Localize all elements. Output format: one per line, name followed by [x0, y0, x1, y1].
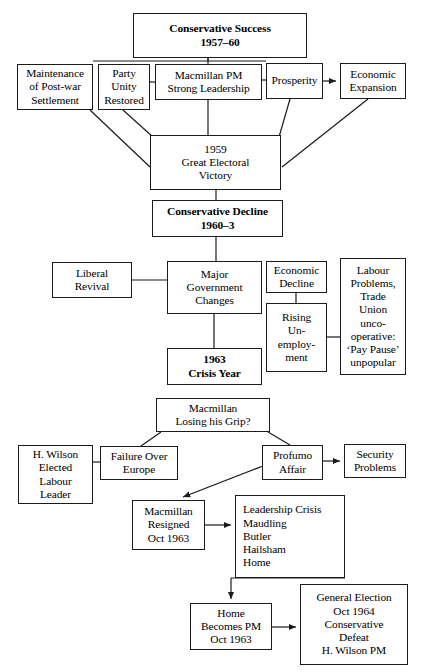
node-text-line: Conservative: [325, 618, 384, 631]
node-text-line: Profumo: [273, 449, 312, 462]
general-election-1964-box[interactable]: General ElectionOct 1964ConservativeDefe…: [300, 584, 408, 665]
node-text-line: Defeat: [339, 631, 369, 644]
node-text-line: Economic: [350, 68, 395, 81]
edge-profumo-to-resigned: [183, 466, 263, 497]
node-text-line: Expansion: [349, 81, 396, 94]
node-text-line: Trade: [360, 290, 386, 303]
node-text-line: Butler: [243, 530, 271, 543]
node-text-line: Un-: [288, 324, 305, 337]
node-text-line: Oct 1963: [210, 633, 251, 646]
node-text-line: Prosperity: [272, 74, 318, 87]
node-text-line: Victory: [199, 169, 232, 182]
conservative-success-box[interactable]: Conservative Success1957–60: [133, 13, 307, 58]
node-text-line: Security: [356, 448, 393, 461]
node-text-line: Changes: [195, 294, 234, 307]
node-text-line: Conservative Success: [169, 22, 270, 35]
node-text-line: Decline: [279, 277, 314, 290]
node-text-line: Government: [187, 281, 243, 294]
node-text-line: Settlement: [31, 94, 79, 107]
node-text-line: operative:: [351, 330, 396, 343]
node-text-line: Labour: [357, 264, 389, 277]
node-text-line: Conservative Decline: [167, 205, 268, 218]
node-text-line: 1957–60: [200, 36, 239, 49]
edge-maintenance-to-victory: [90, 110, 150, 167]
node-text-line: of Post-war: [29, 80, 81, 93]
home-becomes-pm-box[interactable]: HomeBecomes PMOct 1963: [190, 603, 272, 650]
maintenance-post-war-settlement-box[interactable]: Maintenanceof Post-warSettlement: [17, 64, 93, 110]
node-text-line: ment: [285, 351, 307, 364]
conservative-decline-box[interactable]: Conservative Decline1960–3: [152, 200, 283, 237]
node-text-line: Macmillan: [189, 402, 237, 415]
security-problems-box[interactable]: SecurityProblems: [344, 444, 406, 478]
macmillan-resigned-box[interactable]: MacmillanResignedOct 1963: [132, 500, 205, 550]
node-text-line: Labour: [39, 475, 71, 488]
edge-grip-to-profumo: [268, 432, 290, 445]
node-text-line: Maintenance: [26, 67, 84, 80]
node-text-line: Home: [243, 556, 270, 569]
node-text-line: Oct 1963: [148, 532, 189, 545]
edge-grip-to-failure: [141, 432, 161, 446]
profumo-affair-box[interactable]: ProfumoAffair: [262, 445, 323, 480]
h-wilson-elected-labour-leader-box[interactable]: H. WilsonElectedLabourLeader: [18, 445, 93, 504]
macmillan-pm-strong-leadership-box[interactable]: Macmillan PMStrong Leadership: [155, 64, 262, 100]
edge-prosperity-to-victory: [279, 99, 290, 137]
liberal-revival-box[interactable]: LiberalRevival: [52, 262, 132, 298]
node-text-line: employ-: [278, 338, 315, 351]
node-text-line: H. Wilson: [33, 448, 78, 461]
rising-unemployment-box[interactable]: RisingUn-employ-ment: [266, 303, 327, 372]
node-text-line: Economic: [274, 264, 319, 277]
node-text-line: Europe: [123, 463, 155, 476]
node-text-line: Home: [217, 607, 244, 620]
node-text-line: Elected: [39, 461, 72, 474]
node-text-line: 1963: [203, 353, 225, 366]
node-text-line: Oct 1964: [333, 605, 374, 618]
node-text-line: Failure Over: [111, 450, 168, 463]
node-text-line: Rising: [282, 311, 311, 324]
economic-decline-box[interactable]: EconomicDecline: [266, 261, 327, 293]
node-text-line: Party: [112, 67, 136, 80]
node-text-line: Leadership Crisis: [243, 503, 321, 516]
edge-expansion-to-victory: [282, 99, 368, 167]
node-text-line: Becomes PM: [201, 620, 261, 633]
node-text-line: Major: [201, 268, 228, 281]
node-text-line: Great Electoral: [182, 156, 250, 169]
node-text-line: 1959: [204, 143, 226, 156]
node-text-line: Macmillan: [144, 505, 192, 518]
node-text-line: Affair: [279, 463, 306, 476]
node-text-line: Liberal: [76, 267, 108, 280]
node-text-line: H. Wilson PM: [322, 644, 386, 657]
edge-success-hbar: [93, 58, 266, 61]
node-text-line: Hailsham: [243, 543, 286, 556]
node-text-line: Strong Leadership: [167, 82, 249, 95]
node-text-line: Restored: [104, 94, 144, 107]
failure-over-europe-box[interactable]: Failure OverEurope: [100, 446, 178, 480]
node-text-line: unco-: [360, 317, 385, 330]
node-text-line: Macmillan PM: [175, 69, 242, 82]
node-text-line: Crisis Year: [188, 367, 241, 380]
prosperity-box[interactable]: Prosperity: [266, 63, 323, 99]
node-text-line: Problems,: [351, 277, 396, 290]
macmillan-losing-his-grip-box[interactable]: MacmillanLosing his Grip?: [156, 398, 270, 432]
leadership-crisis-box[interactable]: Leadership CrisisMaudlingButlerHailshamH…: [235, 495, 345, 578]
node-text-line: Union: [359, 303, 387, 316]
node-text-line: Losing his Grip?: [176, 415, 251, 428]
edge-party-unity-to-victory: [123, 110, 153, 137]
node-text-line: Maudling: [243, 517, 287, 530]
node-text-line: Resigned: [148, 518, 190, 531]
crisis-year-1963-box[interactable]: 1963Crisis Year: [167, 348, 262, 385]
node-text-line: unpopular: [350, 356, 395, 369]
economic-expansion-box[interactable]: EconomicExpansion: [340, 63, 406, 99]
node-text-line: Problems: [354, 461, 396, 474]
node-text-line: Unity: [111, 80, 136, 93]
flowchart-canvas: Conservative Success1957–60Maintenanceof…: [0, 0, 423, 672]
node-text-line: ‘Pay Pause’: [347, 343, 400, 356]
great-electoral-victory-box[interactable]: 1959Great ElectoralVictory: [150, 135, 281, 190]
node-text-line: General Election: [316, 591, 391, 604]
major-government-changes-box[interactable]: MajorGovernmentChanges: [167, 261, 262, 314]
node-text-line: Leader: [40, 488, 71, 501]
node-text-line: Revival: [75, 280, 110, 293]
labour-problems-trade-union-box[interactable]: LabourProblems,TradeUnionunco-operative:…: [340, 258, 406, 375]
party-unity-restored-box[interactable]: PartyUnityRestored: [98, 64, 150, 110]
node-text-line: 1960–3: [201, 219, 235, 232]
